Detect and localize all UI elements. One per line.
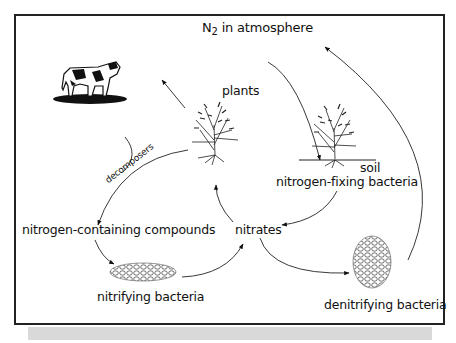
- label-plants: plants: [222, 85, 259, 98]
- label-denitrifying-bacteria: denitrifying bacteria: [324, 299, 447, 312]
- cow-icon: [53, 62, 127, 104]
- plant-icon: [192, 102, 238, 165]
- arrow-nitrates-to-plants: [216, 185, 233, 222]
- arrow-atmosphere-to-fixing: [268, 62, 320, 160]
- label-nitrogen-fixing-bacteria: nitrogen-fixing bacteria: [276, 176, 418, 189]
- arrow-decomposers: [98, 150, 188, 225]
- diagram-artwork: [0, 0, 456, 343]
- arrow-denitrifying-to-atmosphere: [325, 47, 422, 260]
- label-nitrifying-bacteria: nitrifying bacteria: [97, 291, 204, 304]
- label-nitrogen-containing-compounds: nitrogen-containing compounds: [22, 224, 215, 237]
- denitrifying-bacteria-icon: [353, 236, 391, 288]
- label-nitrates: nitrates: [235, 224, 282, 237]
- plant-with-roots-icon: [312, 104, 356, 168]
- label-n2-atmosphere: N2 in atmosphere: [202, 21, 313, 37]
- arrow-plants-to-cow: [162, 80, 185, 108]
- nitrifying-bacteria-icon: [110, 263, 176, 281]
- arrow-nitrifying-to-nitrates: [182, 244, 243, 277]
- arrow-nitrates-to-denitrifying: [260, 238, 349, 273]
- arrow-compounds-to-nitrifying-b: [95, 240, 114, 264]
- arrow-fixing-to-nitrates: [282, 191, 337, 225]
- label-soil: soil: [360, 162, 380, 175]
